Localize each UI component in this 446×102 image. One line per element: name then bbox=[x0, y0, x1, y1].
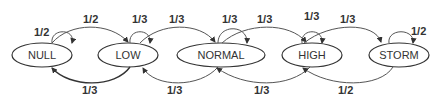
label-low-to-null: 1/3 bbox=[82, 84, 97, 96]
edge-low-to-normal bbox=[140, 27, 215, 43]
state-normal: NORMAL bbox=[177, 43, 265, 67]
edge-null-to-low bbox=[52, 27, 128, 43]
edge-null-self bbox=[52, 32, 73, 43]
state-high: HIGH bbox=[282, 43, 342, 67]
label-storm-to-high: 1/2 bbox=[338, 84, 353, 96]
state-diagram: NULL LOW NORMAL HIGH STORM 1/2 1/2 1/3 1… bbox=[0, 0, 446, 102]
label-null-self: 1/2 bbox=[34, 26, 49, 38]
label-normal-self: 1/3 bbox=[222, 13, 237, 25]
state-low-label: LOW bbox=[115, 49, 141, 61]
edge-low-to-null bbox=[52, 67, 130, 83]
state-high-label: HIGH bbox=[298, 49, 326, 61]
edge-normal-to-high bbox=[222, 27, 306, 43]
edge-storm-self bbox=[389, 32, 413, 43]
label-high-to-normal: 1/3 bbox=[254, 84, 269, 96]
label-high-to-storm: 1/3 bbox=[340, 13, 355, 25]
label-low-to-normal: 1/3 bbox=[169, 13, 184, 25]
edge-high-to-normal bbox=[217, 67, 310, 83]
label-low-self: 1/3 bbox=[132, 13, 147, 25]
label-normal-to-low: 1/3 bbox=[167, 84, 182, 96]
edge-high-to-storm bbox=[304, 27, 381, 43]
label-high-self: 1/3 bbox=[304, 10, 319, 22]
label-storm-self: 1/2 bbox=[411, 25, 426, 37]
state-null-label: NULL bbox=[28, 49, 56, 61]
state-storm-label: STORM bbox=[379, 49, 419, 61]
label-normal-to-high: 1/3 bbox=[257, 13, 272, 25]
state-normal-label: NORMAL bbox=[197, 49, 244, 61]
edge-storm-to-high bbox=[303, 67, 393, 83]
state-null: NULL bbox=[12, 43, 72, 67]
label-null-to-low: 1/2 bbox=[83, 13, 98, 25]
edge-normal-to-low bbox=[143, 67, 218, 83]
state-storm: STORM bbox=[369, 43, 429, 67]
state-low: LOW bbox=[98, 43, 158, 67]
